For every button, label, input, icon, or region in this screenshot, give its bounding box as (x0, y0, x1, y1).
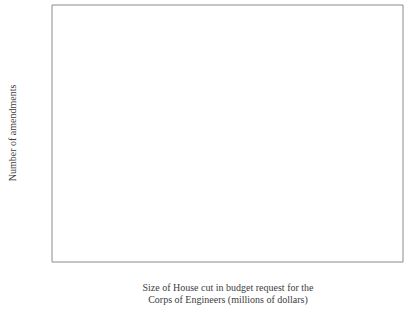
scatter-plot-figure: Size of House cut in budget request for … (0, 0, 411, 319)
plot-border (52, 5, 403, 262)
plot-canvas: Size of House cut in budget request for … (0, 0, 411, 319)
plot-frame (52, 5, 403, 262)
x-axis-title-line2: Corps of Engineers (millions of dollars) (148, 294, 308, 306)
axis-titles: Size of House cut in budget request for … (7, 85, 314, 306)
x-axis-title-line1: Size of House cut in budget request for … (142, 282, 314, 293)
y-axis-title: Number of amendments (7, 85, 18, 182)
